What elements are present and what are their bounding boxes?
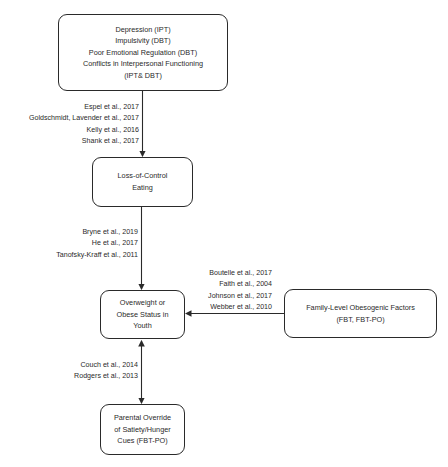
node-line: (IPT& DBT) bbox=[124, 70, 162, 82]
node-line: Conflicts in Interpersonal Functioning bbox=[83, 58, 203, 70]
citations-loc-to-overweight: Bryne et al., 2019 He et al., 2017 Tanof… bbox=[56, 227, 138, 261]
citation: Johnson et al., 2017 bbox=[208, 291, 272, 302]
node-line: Eating bbox=[132, 182, 153, 194]
node-line: Youth bbox=[133, 320, 151, 332]
citation: Tanofsky-Kraff et al., 2011 bbox=[56, 250, 138, 261]
citation: Kelly et al., 2016 bbox=[29, 125, 139, 136]
citations-overweight-parental: Couch et al., 2014 Rodgers et al., 2013 bbox=[74, 360, 138, 383]
node-line: Impulsivity (DBT) bbox=[115, 35, 171, 47]
node-line: Obese Status in bbox=[117, 309, 169, 321]
node-line: (FBT, FBT-PO) bbox=[336, 314, 384, 326]
node-overweight-obese-status: Overweight or Obese Status in Youth bbox=[100, 290, 185, 339]
node-line: Family-Level Obesogenic Factors bbox=[306, 302, 415, 314]
node-line: Poor Emotional Regulation (DBT) bbox=[89, 47, 197, 59]
citation: Webber et al., 2010 bbox=[208, 302, 272, 313]
citation: Rodgers et al., 2013 bbox=[74, 371, 138, 382]
node-parental-override: Parental Override of Satiety/Hunger Cues… bbox=[100, 404, 185, 455]
citation: Couch et al., 2014 bbox=[74, 360, 138, 371]
node-line: of Satiety/Hunger bbox=[114, 424, 170, 436]
citation: He et al., 2017 bbox=[56, 238, 138, 249]
node-line: Loss-of-Control bbox=[118, 170, 168, 182]
node-line: Overweight or bbox=[120, 297, 165, 309]
citation: Shank et al., 2017 bbox=[29, 136, 139, 147]
node-loss-of-control-eating: Loss-of-Control Eating bbox=[92, 157, 193, 207]
citations-family-to-overweight: Boutelle et al., 2017 Faith et al., 2004… bbox=[208, 268, 272, 313]
node-risk-factors: Depression (IPT) Impulsivity (DBT) Poor … bbox=[58, 14, 228, 91]
node-line: Cues (FBT-PO) bbox=[117, 435, 167, 447]
citation: Faith et al., 2004 bbox=[208, 279, 272, 290]
node-family-level-factors: Family-Level Obesogenic Factors (FBT, FB… bbox=[284, 289, 437, 338]
citation: Goldschmidt, Lavender et al., 2017 bbox=[29, 113, 139, 124]
citation: Bryne et al., 2019 bbox=[56, 227, 138, 238]
citation: Boutelle et al., 2017 bbox=[208, 268, 272, 279]
citation: Espel et al., 2017 bbox=[29, 102, 139, 113]
node-line: Depression (IPT) bbox=[115, 24, 170, 36]
node-line: Parental Override bbox=[114, 412, 171, 424]
citations-risk-to-loc: Espel et al., 2017 Goldschmidt, Lavender… bbox=[29, 102, 139, 147]
